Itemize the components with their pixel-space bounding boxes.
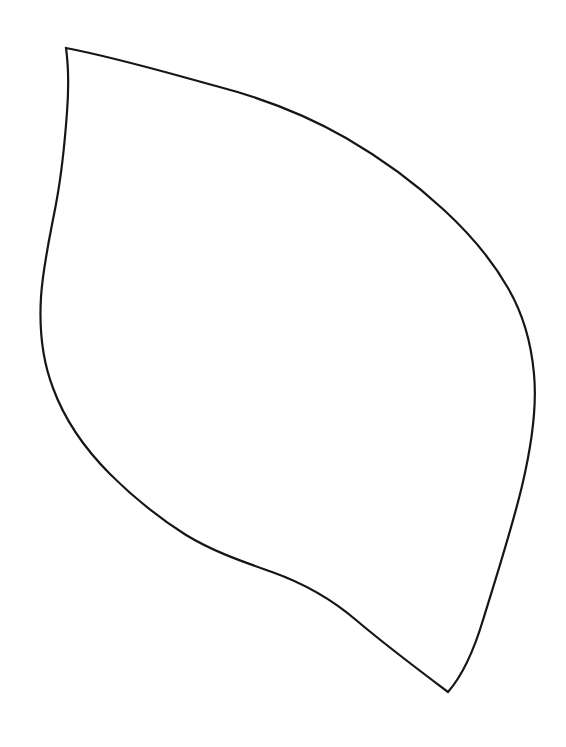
drawing-canvas: Leaf Outline Drawing Black outline drawi… [0, 0, 566, 747]
leaf-drawing-svg: Leaf Outline Drawing [0, 0, 566, 747]
